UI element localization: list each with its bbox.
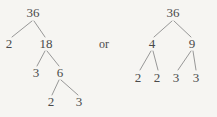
- edge-left-root-to-2: [12, 21, 32, 37]
- edge-right-9-to-3a: [178, 51, 191, 70]
- left-tree-node-2: 2: [6, 37, 13, 50]
- edge-right-4-to-2a: [140, 51, 151, 70]
- separator-or: or: [99, 38, 109, 50]
- left-tree-leaf-2: 2: [48, 95, 55, 108]
- edge-right-root-to-4: [154, 21, 172, 37]
- left-tree-root-36: 36: [27, 6, 40, 19]
- left-tree-leaf-3: 3: [76, 95, 83, 108]
- left-tree-node-18: 18: [40, 37, 53, 50]
- right-tree-node-4: 4: [149, 37, 156, 50]
- edge-right-9-to-3b: [193, 51, 196, 70]
- right-tree-leaf-3-b: 3: [193, 71, 200, 84]
- right-tree-node-9: 9: [189, 37, 196, 50]
- right-tree-leaf-2-b: 2: [154, 71, 161, 84]
- left-tree-node-6: 6: [57, 66, 64, 79]
- left-tree-node-3: 3: [33, 66, 40, 79]
- right-tree-root-36: 36: [167, 6, 180, 19]
- edge-right-4-to-2b: [153, 51, 158, 70]
- right-tree-leaf-3-a: 3: [173, 71, 180, 84]
- right-tree-leaf-2-a: 2: [135, 71, 142, 84]
- factor-tree-figure: 36 2 18 3 6 2 3 or 36 4 9 2 2 3 3: [0, 0, 217, 117]
